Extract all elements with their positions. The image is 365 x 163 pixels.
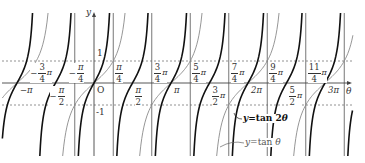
legend-tan-2theta: y=tan 2θ <box>243 114 288 123</box>
x-axis-label: θ <box>346 87 351 96</box>
curve-tan-2theta <box>155 13 186 156</box>
legend-tan-2theta-text: =tan 2 <box>248 113 281 123</box>
origin-label: O <box>97 86 104 95</box>
x-tick-label: π <box>174 86 180 95</box>
x-tick-label: 52π <box>289 86 303 106</box>
x-tick-label: π4 <box>115 63 123 83</box>
curve-tan-2theta <box>117 13 148 156</box>
x-tick-label: 74π <box>231 63 245 83</box>
y-axis-arrow-icon <box>92 12 96 17</box>
curve-tan-2theta <box>348 111 353 156</box>
x-tick-label: 3π <box>328 86 339 95</box>
curve-tan-2theta <box>2 13 32 138</box>
legend-tan-theta: y=tan θ <box>245 138 281 147</box>
x-tick-label: −34π <box>30 63 52 83</box>
x-tick-label: 54π <box>192 63 206 83</box>
x-tick-label: −π4 <box>69 63 85 83</box>
x-tick-label: 114π <box>308 63 327 83</box>
legend-tan-theta-var: θ <box>275 137 280 147</box>
x-tick-label: −π <box>20 86 33 95</box>
x-tick-label: −π2 <box>50 86 66 106</box>
x-axis-arrow-icon <box>347 81 352 85</box>
leader-tan-theta <box>220 142 244 147</box>
y-axis-label: y <box>86 8 91 17</box>
x-tick-label: 2π <box>251 86 262 95</box>
curve-tan-2theta <box>194 13 225 156</box>
legend-tan-2theta-var: θ <box>282 113 288 123</box>
x-tick-label: π2 <box>135 86 143 106</box>
y-tick-1: 1 <box>97 49 103 58</box>
y-tick-minus-1: -1 <box>96 108 105 117</box>
x-tick-label: 32π <box>212 86 226 106</box>
curve-tan-2theta <box>40 13 71 156</box>
x-tick-label: 34π <box>154 63 168 83</box>
x-tick-label: 94π <box>269 63 283 83</box>
curve-tan-2theta <box>271 13 302 156</box>
legend-tan-theta-text: =tan <box>250 137 275 147</box>
